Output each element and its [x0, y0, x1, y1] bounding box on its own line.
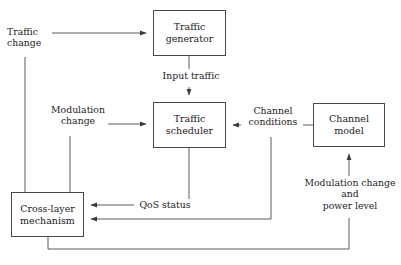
node-traffic-scheduler-line1: Traffic — [166, 113, 213, 125]
node-traffic-generator-line1: Traffic — [166, 21, 214, 33]
label-input-traffic: Input traffic — [155, 70, 227, 81]
edge-crosslayer-to-channelmodel-path — [48, 218, 349, 249]
node-cross-layer-line2: mechanism — [20, 215, 75, 227]
label-modulation-and-power: Modulation change and power level — [298, 177, 401, 211]
label-traffic-change: Traffic change — [6, 26, 52, 49]
node-cross-layer-line1: Cross-layer — [20, 203, 75, 215]
node-channel-model-line2: model — [329, 125, 369, 137]
node-traffic-generator-line2: generator — [166, 33, 214, 45]
node-channel-model: Channel model — [313, 103, 385, 147]
label-qos-status: QoS status — [136, 199, 194, 210]
edge-qos-status-vertical — [189, 148, 194, 205]
node-cross-layer-mechanism: Cross-layer mechanism — [11, 192, 84, 237]
diagram-canvas: Traffic generator Traffic scheduler Chan… — [0, 0, 401, 265]
label-modulation-change: Modulation change — [48, 104, 108, 127]
node-traffic-scheduler-line2: scheduler — [166, 125, 213, 137]
node-channel-model-line1: Channel — [329, 113, 369, 125]
node-traffic-scheduler: Traffic scheduler — [153, 102, 226, 148]
label-channel-conditions: Channel conditions — [243, 105, 303, 128]
node-traffic-generator: Traffic generator — [153, 10, 226, 56]
